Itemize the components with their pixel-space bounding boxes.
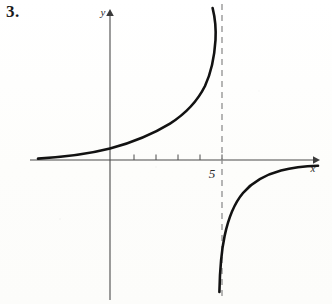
figure-page: 3. 5 x y [0,0,332,304]
y-axis [106,9,114,300]
x-tick-label-5: 5 [209,166,216,181]
y-axis-arrowhead [106,9,114,16]
curve-left-branch [38,8,216,159]
graph-figure: 5 x y [0,0,332,304]
y-axis-label: y [100,6,106,18]
x-axis-ticks [134,155,222,161]
curve-right-branch [219,166,318,292]
x-axis-label: x [310,162,316,174]
x-axis [30,156,320,164]
